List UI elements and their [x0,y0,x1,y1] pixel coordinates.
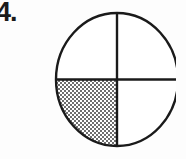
quadrant-bottom-left-shaded [48,80,117,150]
item-number-label: 4. [0,0,17,26]
worksheet-page: 4. [0,0,186,159]
fraction-circle-figure [48,10,176,149]
fraction-circle-svg [48,10,176,149]
